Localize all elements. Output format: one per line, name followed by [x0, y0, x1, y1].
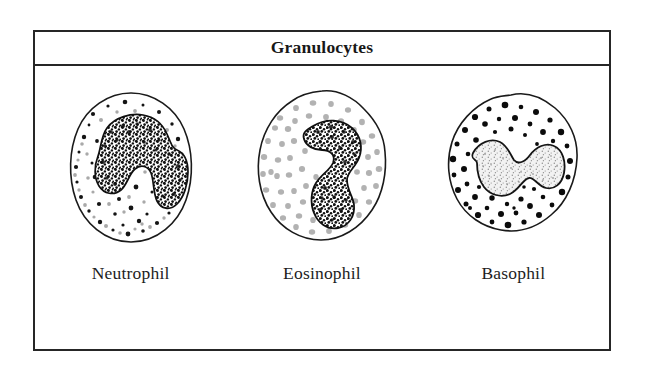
- cell-column-eosinophil: Eosinophil: [226, 66, 417, 349]
- neutrophil-cell-illustration: [51, 84, 211, 259]
- figure-frame: Granulocytes: [33, 30, 611, 351]
- cell-column-basophil: Basophil: [418, 66, 609, 349]
- cell-column-neutrophil: Neutrophil: [35, 66, 226, 349]
- figure-header-band: Granulocytes: [35, 32, 609, 66]
- eosinophil-cell-illustration: [242, 84, 402, 259]
- granulocytes-figure: Granulocytes: [0, 0, 645, 369]
- figure-title: Granulocytes: [271, 39, 374, 57]
- basophil-cell-illustration: [433, 84, 593, 259]
- cells-row: Neutrophil: [35, 66, 609, 349]
- cell-label-eosinophil: Eosinophil: [283, 265, 361, 283]
- cell-label-basophil: Basophil: [481, 265, 545, 283]
- cell-label-neutrophil: Neutrophil: [92, 265, 170, 283]
